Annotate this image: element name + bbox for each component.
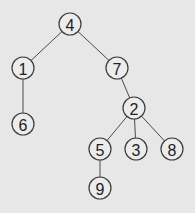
tree-node-6: 6 — [12, 113, 34, 135]
node-label: 3 — [132, 142, 141, 159]
node-label: 8 — [168, 142, 177, 159]
node-label: 6 — [19, 117, 28, 134]
tree-node-8: 8 — [161, 138, 183, 160]
tree-node-3: 3 — [125, 138, 147, 160]
tree-node-2: 2 — [123, 97, 145, 119]
node-label: 4 — [66, 17, 75, 34]
tree-nodes: 4 1 7 6 2 5 3 8 9 — [12, 13, 183, 199]
tree-node-1: 1 — [12, 57, 34, 79]
tree-canvas: 4 1 7 6 2 5 3 8 9 — [0, 0, 195, 213]
node-label: 2 — [130, 101, 139, 118]
tree-node-5: 5 — [89, 138, 111, 160]
node-label: 1 — [19, 61, 28, 78]
tree-node-9: 9 — [89, 177, 111, 199]
node-label: 7 — [113, 61, 122, 78]
node-label: 9 — [96, 181, 105, 198]
tree-node-7: 7 — [106, 57, 128, 79]
tree-node-4: 4 — [59, 13, 81, 35]
tree-edges — [23, 24, 172, 188]
node-label: 5 — [96, 142, 105, 159]
tree-diagram: 4 1 7 6 2 5 3 8 9 — [0, 0, 195, 213]
